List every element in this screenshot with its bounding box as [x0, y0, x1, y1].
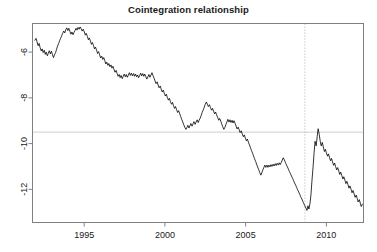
- plot-frame: [33, 24, 364, 223]
- series-cointegration-residual: [35, 27, 362, 210]
- y-tick-label--10: -10: [20, 137, 30, 150]
- chart-figure: Cointegration relationship -6-8-10-12199…: [0, 0, 377, 252]
- x-tick-label-2005: 2005: [236, 230, 256, 240]
- x-tick-label-2000: 2000: [155, 230, 175, 240]
- y-tick-label--8: -8: [20, 94, 30, 102]
- x-tick-label-2010: 2010: [316, 230, 336, 240]
- x-tick-label-1995: 1995: [74, 230, 94, 240]
- plot-canvas: -6-8-10-121995200020052010: [0, 0, 377, 252]
- y-tick-label--12: -12: [20, 183, 30, 196]
- y-tick-label--6: -6: [20, 48, 30, 56]
